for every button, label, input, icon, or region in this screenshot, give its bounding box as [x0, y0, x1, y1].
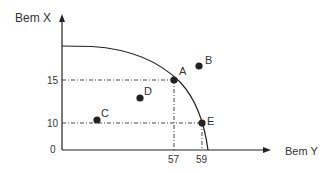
point-e	[198, 119, 205, 126]
x-axis-title: Bem Y	[285, 145, 318, 157]
point-d	[136, 94, 143, 101]
point-c	[93, 116, 100, 123]
point-b	[195, 62, 202, 69]
point-a	[170, 76, 177, 83]
y-tick-15: 15	[47, 75, 59, 86]
y-axis-arrow-icon	[59, 14, 65, 22]
x-tick-57: 57	[168, 154, 180, 165]
label-d: D	[144, 85, 152, 97]
x-axis-arrow-icon	[263, 147, 271, 153]
y-axis-title: Bem X	[15, 11, 51, 25]
label-a: A	[179, 65, 187, 77]
chart-svg: A B C D E Bem X Bem Y 15 10 0 57 59	[0, 0, 326, 173]
ppf-curve	[62, 46, 208, 150]
label-b: B	[205, 54, 212, 66]
x-tick-59: 59	[196, 154, 208, 165]
y-tick-10: 10	[47, 118, 59, 129]
label-e: E	[207, 115, 214, 127]
label-c: C	[101, 107, 109, 119]
guide-lines	[62, 80, 202, 150]
ppf-chart: A B C D E Bem X Bem Y 15 10 0 57 59	[0, 0, 326, 173]
y-tick-0: 0	[50, 144, 56, 155]
